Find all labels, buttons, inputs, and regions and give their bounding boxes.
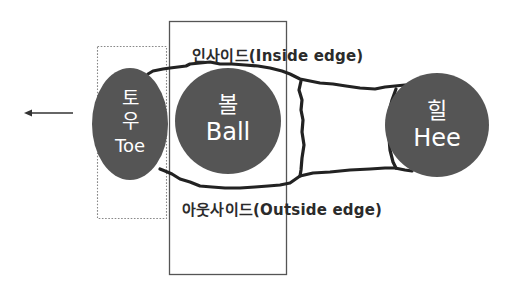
ball-korean: 볼 <box>188 92 268 117</box>
outside-edge-label: 아웃사이드(Outside edge) <box>182 198 382 219</box>
foot-zones-diagram: 토 우 Toe 볼 Ball 힐 Hee 인사이드(Inside edge) 아… <box>0 0 515 292</box>
ball-label: 볼 Ball <box>188 92 268 147</box>
toe-english: Toe <box>105 136 155 157</box>
toe-korean-2: 우 <box>105 111 155 133</box>
toe-label: 토 우 Toe <box>105 88 155 156</box>
toe-korean-1: 토 <box>105 88 155 110</box>
heel-label: 힐 Hee <box>397 98 477 153</box>
heel-korean: 힐 <box>397 98 477 123</box>
arrow-left-icon <box>24 110 73 117</box>
inside-edge-label: 인사이드(Inside edge) <box>192 44 363 65</box>
ball-english: Ball <box>188 119 268 147</box>
heel-english: Hee <box>397 125 477 153</box>
